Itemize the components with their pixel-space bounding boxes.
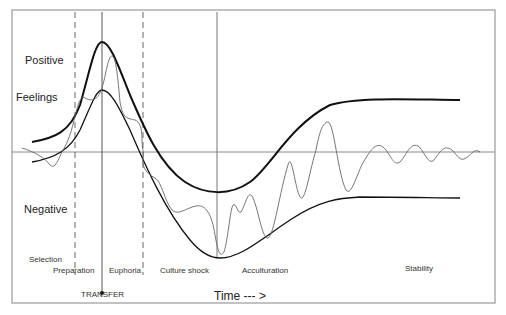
phase-stability: Stability <box>405 264 433 273</box>
lower-envelope-curve <box>32 90 460 258</box>
feelings-oscillation-curve <box>22 56 480 254</box>
culture-shock-diagram: Positive Feelings Negative Selection Pre… <box>0 0 506 315</box>
phase-preparation: Preparation <box>53 266 94 275</box>
transfer-label: TRANSFER <box>81 290 124 299</box>
phase-acculturation: Acculturation <box>242 266 288 275</box>
phase-selection: Selection <box>29 255 62 264</box>
time-axis-label: Time --- > <box>214 289 266 303</box>
frame <box>12 10 495 303</box>
phase-culture-shock: Culture shock <box>160 266 209 275</box>
label-negative: Negative <box>24 203 67 215</box>
label-positive: Positive <box>25 54 64 66</box>
label-feelings: Feelings <box>16 91 58 103</box>
upper-envelope-curve <box>32 42 460 192</box>
phase-euphoria: Euphoria <box>109 266 141 275</box>
